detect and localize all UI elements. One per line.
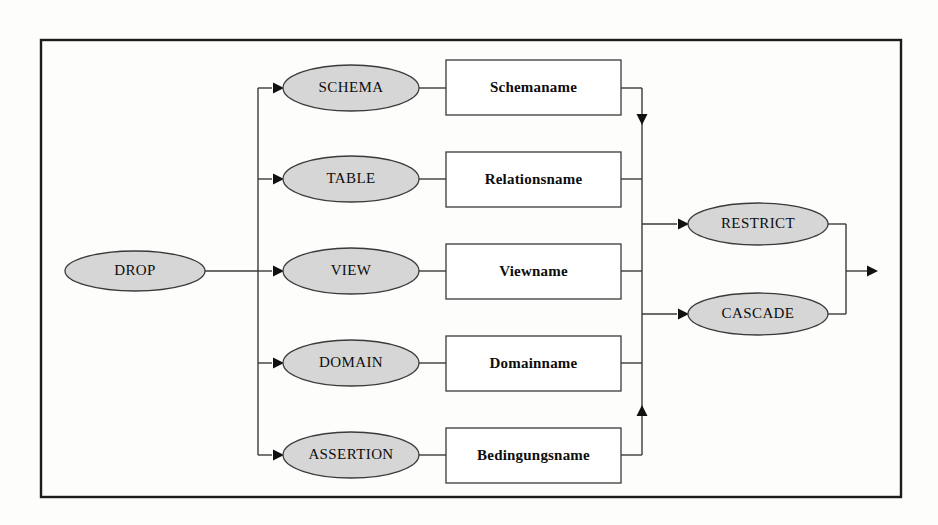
keyword-label-domain: DOMAIN: [319, 354, 383, 370]
terminal-cascade: CASCADE: [688, 293, 828, 335]
keyword-label-view: VIEW: [331, 262, 372, 278]
operand-label-domain: Domainname: [490, 355, 578, 371]
operand-label-table: Relationsname: [485, 171, 583, 187]
row-domain: DomainnameDOMAIN: [283, 336, 621, 391]
drop-syntax-diagram: DROP SchemanameSCHEMARelationsnameTABLEV…: [0, 0, 938, 525]
node-drop: DROP: [65, 251, 205, 291]
merge-flow-arrow-down-0: [637, 114, 648, 125]
terminal-restrict: RESTRICT: [688, 203, 828, 245]
row-table: RelationsnameTABLE: [283, 152, 621, 207]
keyword-label-table: TABLE: [326, 170, 375, 186]
syntax-diagram-canvas: DROP SchemanameSCHEMARelationsnameTABLEV…: [0, 0, 938, 525]
keyword-rows: SchemanameSCHEMARelationsnameTABLEViewna…: [283, 60, 621, 483]
row-schema: SchemanameSCHEMA: [283, 60, 621, 115]
operand-label-view: Viewname: [499, 263, 568, 279]
drop-label: DROP: [114, 262, 156, 278]
row-assertion: BedingungsnameASSERTION: [283, 428, 621, 483]
row-view: ViewnameVIEW: [283, 244, 621, 299]
operand-label-assertion: Bedingungsname: [477, 447, 590, 463]
operand-label-schema: Schemaname: [490, 79, 577, 95]
terminal-options: RESTRICTCASCADE: [688, 203, 828, 335]
merge-flow-arrow-up-1: [637, 405, 648, 416]
keyword-label-assertion: ASSERTION: [308, 446, 393, 462]
terminal-label-cascade: CASCADE: [722, 305, 795, 321]
terminal-label-restrict: RESTRICT: [721, 215, 795, 231]
keyword-label-schema: SCHEMA: [319, 79, 384, 95]
exit-arrow: [867, 266, 878, 277]
